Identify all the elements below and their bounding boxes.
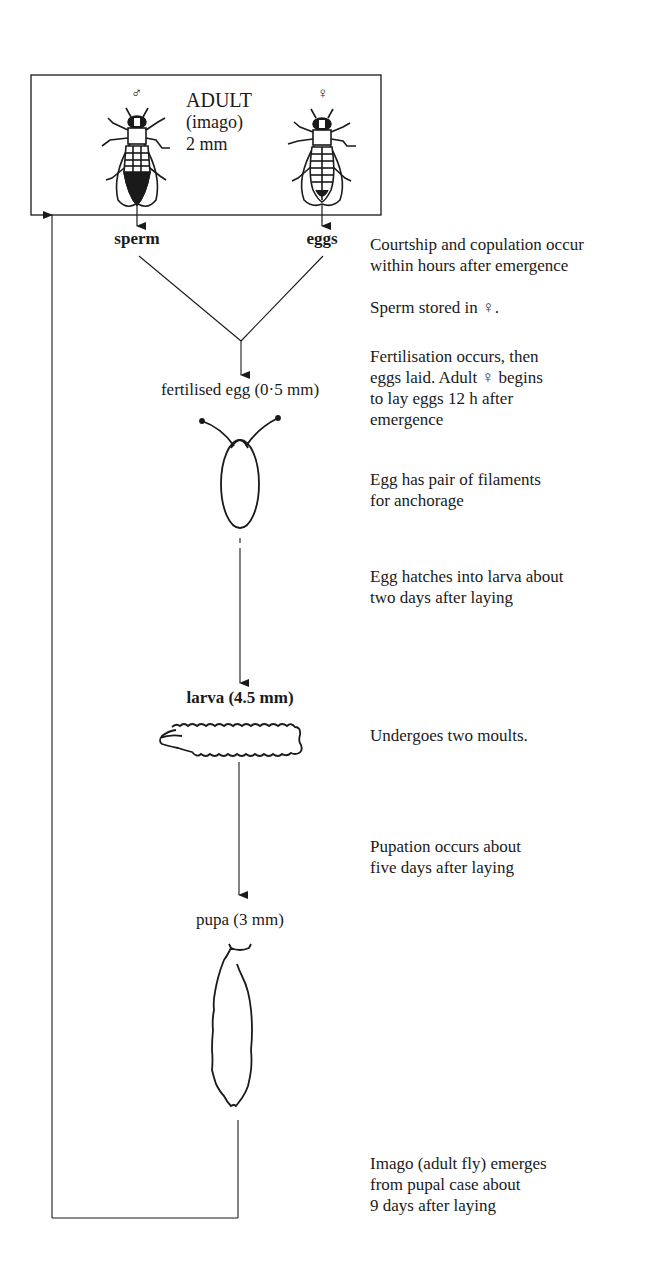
note-egg-hatches: Egg hatches into larva about two days af…: [370, 566, 564, 608]
female-fly-icon: [288, 109, 356, 205]
male-symbol: ♂: [131, 85, 142, 102]
eggs-label: eggs: [297, 229, 347, 249]
pupa-icon: [212, 944, 252, 1106]
note-sperm-stored: Sperm stored in ♀.: [370, 297, 499, 318]
female-symbol: ♀: [317, 85, 328, 102]
adult-title: ADULT: [186, 89, 252, 111]
stage-label-pupa: pupa (3 mm): [185, 910, 295, 930]
adult-size: 2 mm: [186, 133, 252, 155]
adult-label: ADULT (imago) 2 mm: [186, 89, 252, 155]
egg-icon: [200, 416, 280, 528]
note-courtship: Courtship and copulation occur within ho…: [370, 234, 584, 276]
adult-subtitle: (imago): [186, 111, 252, 133]
note-egg-filaments: Egg has pair of filaments for anchorage: [370, 469, 541, 511]
return-loop: [52, 1120, 238, 1218]
note-moults: Undergoes two moults.: [370, 725, 528, 746]
life-cycle-diagram: [0, 0, 667, 1262]
male-fly-icon: [102, 108, 170, 206]
stage-label-larva: larva (4.5 mm): [180, 688, 300, 708]
stage-label-fertilised-egg: fertilised egg (0·5 mm): [140, 380, 340, 400]
fertilisation-connector: [139, 256, 323, 341]
sperm-label: sperm: [102, 229, 172, 249]
note-imago-emerges: Imago (adult fly) emerges from pupal cas…: [370, 1153, 547, 1216]
note-pupation: Pupation occurs about five days after la…: [370, 836, 521, 878]
larva-icon: [160, 724, 302, 756]
note-fertilisation: Fertilisation occurs, then eggs laid. Ad…: [370, 346, 543, 430]
